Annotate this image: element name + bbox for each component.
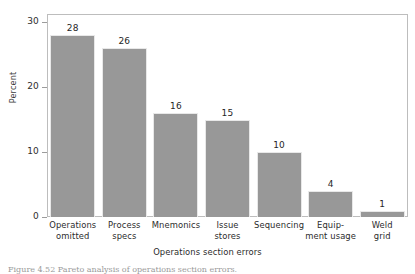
bar-value-label: 26 <box>118 37 130 46</box>
bar-value-label: 1 <box>379 200 385 209</box>
bar-value-label: 28 <box>67 24 79 33</box>
x-category-line: ment usage <box>305 231 357 242</box>
x-axis-title: Operations section errors <box>0 247 415 257</box>
bar-item[interactable]: 1 <box>360 14 405 217</box>
x-category-label: Sequencing <box>253 220 305 231</box>
bar-item[interactable]: 10 <box>257 14 302 217</box>
bar-rectangle[interactable] <box>102 48 147 217</box>
bar-item[interactable]: 16 <box>153 14 198 217</box>
x-axis-category-labels: OperationsomittedProcessspecsMnemonicsIs… <box>47 220 408 246</box>
bar-series: 282616151041 <box>47 14 408 217</box>
x-category-line: grid <box>356 231 408 242</box>
bar-value-label: 16 <box>170 102 182 111</box>
bar-value-label: 4 <box>328 180 334 189</box>
x-category-label: Issuestores <box>202 220 254 242</box>
y-axis-title: Percent <box>9 53 18 123</box>
x-category-line: specs <box>99 231 151 242</box>
bar-value-label: 15 <box>222 109 234 118</box>
x-category-line: Mnemonics <box>150 220 202 231</box>
y-tick-label: 30 <box>27 16 39 26</box>
bar-rectangle[interactable] <box>257 152 302 217</box>
bar-item[interactable]: 26 <box>102 14 147 217</box>
x-category-label: Mnemonics <box>150 220 202 231</box>
figure-caption: Figure 4.52 Pareto analysis of operation… <box>8 265 408 274</box>
bar-chart-figure: Percent 30 20 10 0 282616151041 Operatio… <box>0 0 415 274</box>
bar-rectangle[interactable] <box>360 211 405 218</box>
x-category-label: Equip-ment usage <box>305 220 357 242</box>
x-category-line: Issue <box>202 220 254 231</box>
x-category-label: Operationsomitted <box>47 220 99 242</box>
bar-item[interactable]: 15 <box>205 14 250 217</box>
y-tick-label: 0 <box>33 211 39 221</box>
bar-item[interactable]: 28 <box>50 14 95 217</box>
bar-item[interactable]: 4 <box>308 14 353 217</box>
bar-rectangle[interactable] <box>153 113 198 217</box>
bar-rectangle[interactable] <box>308 191 353 217</box>
bar-rectangle[interactable] <box>205 120 250 218</box>
x-category-line: Equip- <box>305 220 357 231</box>
x-category-label: Weldgrid <box>356 220 408 242</box>
y-tick-mark <box>42 217 47 218</box>
bar-rectangle[interactable] <box>50 35 95 217</box>
x-category-line: Process <box>99 220 151 231</box>
x-category-line: omitted <box>47 231 99 242</box>
x-category-label: Processspecs <box>99 220 151 242</box>
y-tick-label: 20 <box>27 81 39 91</box>
x-category-line: Operations <box>47 220 99 231</box>
x-category-line: Weld <box>356 220 408 231</box>
x-category-line: stores <box>202 231 254 242</box>
bar-value-label: 10 <box>273 141 285 150</box>
y-tick-label: 10 <box>27 146 39 156</box>
x-category-line: Sequencing <box>253 220 305 231</box>
